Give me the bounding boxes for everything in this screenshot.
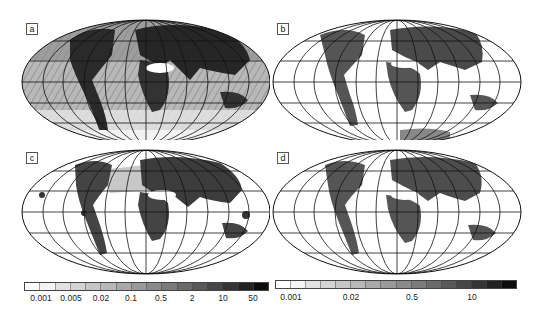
panel-label-d: d [277, 152, 289, 164]
colorbar-left-tick: 0.005 [60, 293, 81, 303]
panel-label-c: c [26, 152, 38, 164]
map-panel-b: b [270, 0, 539, 140]
colorbar-left-tick: 0.1 [125, 293, 137, 303]
colorbar-left-tick: 0.5 [155, 293, 167, 303]
colorbar-right-tick: 0.02 [343, 292, 360, 302]
colorbar-right-tick: 0.001 [280, 292, 301, 302]
colorbar-left-tick: 50 [248, 293, 257, 303]
map-panel-c: c [0, 135, 270, 275]
mollweide-map-b [270, 0, 539, 140]
colorbar-left-tick: 0.02 [93, 293, 110, 303]
colorbar-right-tick: 10 [467, 292, 476, 302]
colorbar-left [24, 282, 269, 291]
mollweide-map-c [0, 135, 270, 275]
colorbar-left-tick: 2 [190, 293, 195, 303]
map-panel-d: d [270, 135, 539, 275]
panel-label-a: a [26, 23, 38, 35]
panel-label-b: b [277, 23, 289, 35]
colorbar-left-tick: 10 [218, 293, 227, 303]
colorbar-right-tick: 0.5 [406, 292, 418, 302]
colorbar-right [275, 280, 517, 289]
colorbar-left-tick: 0.001 [30, 293, 51, 303]
map-panel-a: a [0, 0, 270, 140]
mollweide-map-d [270, 135, 539, 275]
mollweide-map-a [0, 0, 270, 140]
